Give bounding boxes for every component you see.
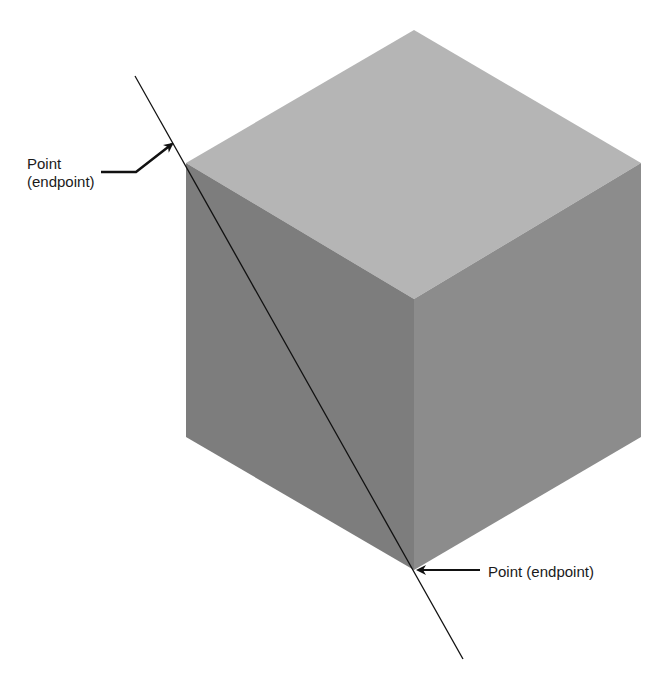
label-bottom-endpoint: Point (endpoint) [488, 563, 594, 581]
cube-diagram [0, 0, 666, 692]
label-top-line1: Point [27, 155, 95, 173]
label-top-line2: (endpoint) [27, 173, 95, 191]
arrow-top-endpoint [101, 144, 172, 172]
label-top-endpoint: Point (endpoint) [27, 155, 95, 191]
